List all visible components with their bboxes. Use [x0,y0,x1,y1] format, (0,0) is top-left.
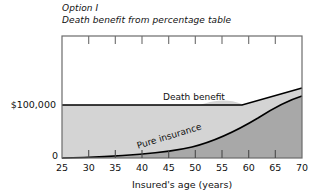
x-tick-label-50: 50 [189,162,201,173]
x-tick-label-45: 45 [163,162,175,173]
figure-title-line-2: Death benefit from percentage table [62,14,231,26]
x-axis-title: Insured's age (years) [132,179,232,190]
y-tick-label-100000: $100,000 [11,99,56,110]
chart-svg: $100,000 0 25 30 35 40 45 50 55 60 65 70… [0,0,322,196]
death-benefit-label: Death benefit [163,92,225,102]
x-tick-label-70: 70 [296,162,308,173]
x-tick-label-65: 65 [269,162,281,173]
figure-container: Option I Death benefit from percentage t… [0,0,322,196]
x-tick-label-40: 40 [136,162,148,173]
x-tick-label-35: 35 [109,162,121,173]
x-tick-label-25: 25 [56,162,68,173]
x-tick-label-55: 55 [216,162,228,173]
figure-title: Option I Death benefit from percentage t… [62,2,231,26]
x-tick-label-30: 30 [83,162,95,173]
figure-title-line-1: Option I [62,2,231,14]
y-tick-label-zero: 0 [52,150,58,161]
x-tick-label-60: 60 [243,162,255,173]
